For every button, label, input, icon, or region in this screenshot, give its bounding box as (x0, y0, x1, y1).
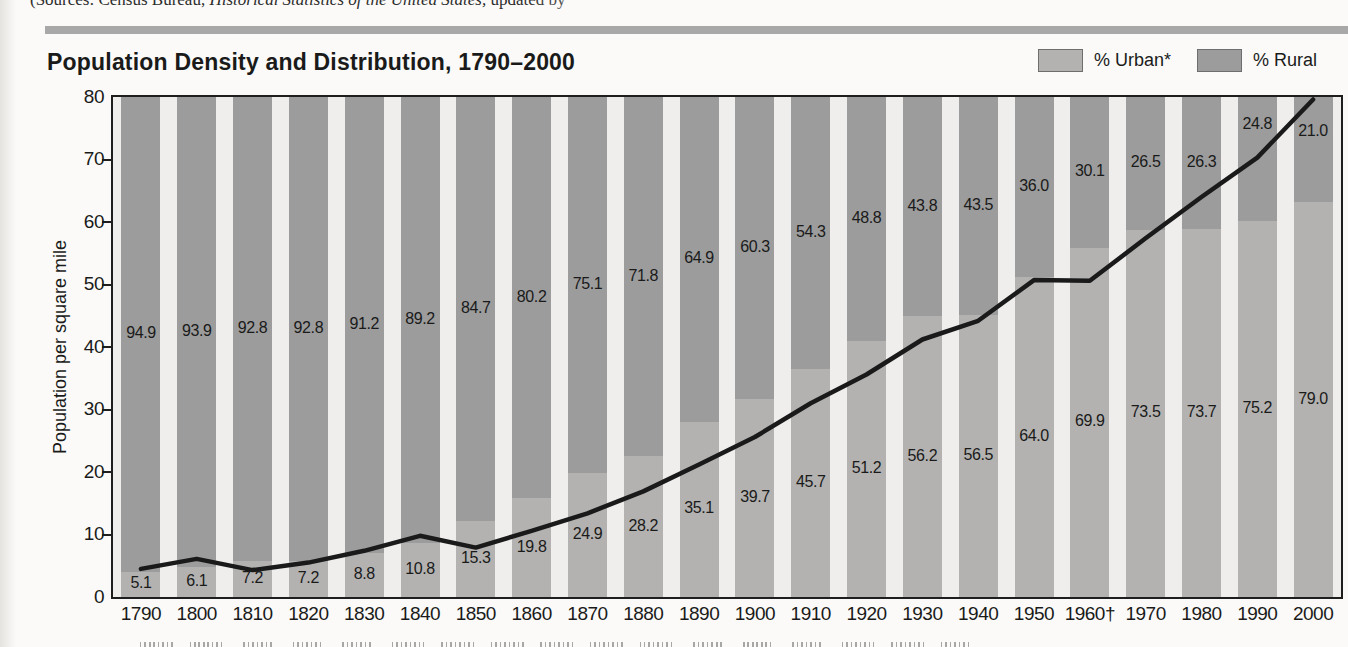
legend-item-urban: % Urban* (1038, 49, 1171, 72)
legend-label-urban: % Urban* (1094, 50, 1171, 71)
x-tick-label: 1990 (1237, 603, 1277, 625)
x-tick-label: 1840 (400, 603, 440, 625)
x-tick-label: 1790 (121, 603, 161, 625)
scanned-textbook-page: (Sources: Census Bureau, Historical Stat… (0, 0, 1348, 647)
x-tick-label: 1860 (511, 603, 551, 625)
y-tick-label: 70 (62, 148, 104, 170)
divider-rule (45, 26, 1348, 34)
source-book-title: Historical Statistics of the United Stat… (209, 0, 486, 9)
x-tick-label: 1850 (456, 603, 496, 625)
page-gutter-shading (0, 0, 16, 647)
x-tick-label: 1970 (1125, 603, 1165, 625)
x-tick-label: 1800 (177, 603, 217, 625)
source-fade-overlay (520, 0, 820, 12)
y-tick-label: 10 (62, 523, 104, 545)
x-tick-label: 1900 (735, 603, 775, 625)
y-tick-label: 30 (62, 398, 104, 420)
density-line (141, 100, 1313, 571)
legend-swatch-urban (1038, 49, 1083, 72)
y-tick-label: 0 (62, 586, 104, 608)
legend-swatch-rural (1197, 49, 1242, 72)
x-tick-label: 1920 (846, 603, 886, 625)
chart-title: Population Density and Distribution, 179… (47, 49, 575, 76)
legend-item-rural: % Rural (1197, 49, 1317, 72)
x-tick-label: 1870 (567, 603, 607, 625)
x-tick-label: 1980 (1181, 603, 1221, 625)
x-tick-label: 1830 (344, 603, 384, 625)
x-tick-label: 1890 (679, 603, 719, 625)
y-tick-label: 50 (62, 273, 104, 295)
x-tick-label: 1940 (958, 603, 998, 625)
y-tick-label: 80 (62, 86, 104, 108)
x-tick-label: 2000 (1293, 603, 1333, 625)
source-prefix: (Sources: Census Bureau, (30, 0, 209, 9)
y-tick-label: 20 (62, 461, 104, 483)
clipped-footnote (140, 642, 970, 647)
y-tick-label: 60 (62, 211, 104, 233)
y-tick-label: 40 (62, 336, 104, 358)
x-tick-label: 1820 (288, 603, 328, 625)
x-tick-label: 1880 (623, 603, 663, 625)
x-tick-label: 1960† (1065, 603, 1115, 625)
x-tick-label: 1910 (791, 603, 831, 625)
density-line-chart (113, 97, 1341, 597)
source-citation-clipped: (Sources: Census Bureau, Historical Stat… (30, 0, 820, 12)
x-tick-label: 1810 (232, 603, 272, 625)
plot-area: 94.95.193.96.192.87.292.87.291.28.889.21… (113, 97, 1341, 597)
legend-label-rural: % Rural (1253, 50, 1317, 71)
x-tick-label: 1950 (1014, 603, 1054, 625)
x-tick-label: 1930 (902, 603, 942, 625)
